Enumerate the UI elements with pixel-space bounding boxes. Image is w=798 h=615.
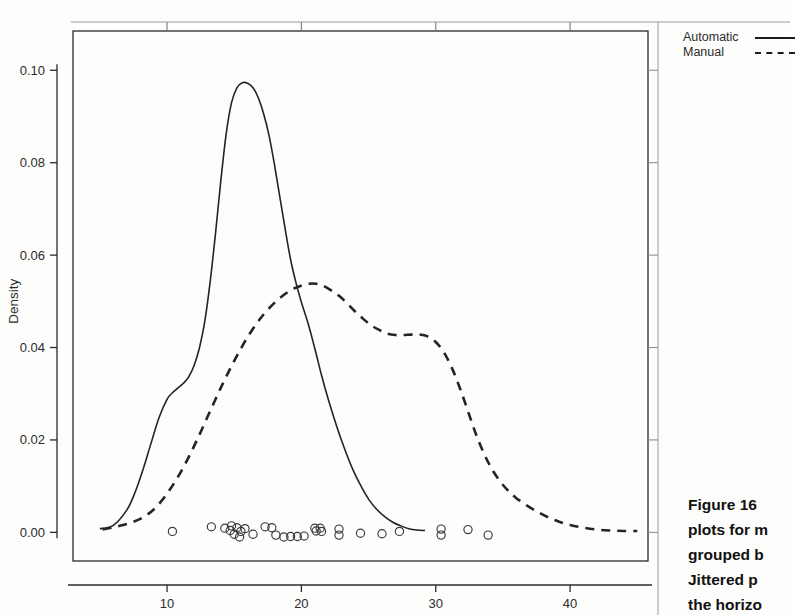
jittered-point: [464, 525, 472, 533]
density-curve-manual: [103, 284, 638, 531]
y-axis-tick-label: 0.08: [20, 155, 45, 170]
jittered-points-group: [168, 522, 492, 541]
y-axis-tick-label: 0.02: [20, 432, 45, 447]
solid-line-key: [755, 37, 795, 42]
jittered-point: [395, 527, 403, 535]
y-axis-tick-label: 0.06: [20, 248, 45, 263]
figure-caption: Figure 16plots for mgrouped bJittered pt…: [688, 492, 798, 615]
jittered-point: [207, 523, 215, 531]
x-axis-tick-label: 40: [563, 596, 577, 611]
jittered-point: [484, 531, 492, 539]
jittered-point: [378, 530, 386, 538]
jittered-point: [272, 531, 280, 539]
y-axis-title: Density: [6, 279, 21, 324]
y-axis-tick-label: 0.10: [20, 63, 45, 78]
y-axis-tick-label: 0.00: [20, 525, 45, 540]
caption-line: grouped b: [688, 542, 798, 567]
density-curve-automatic: [100, 82, 425, 530]
caption-line: plots for m: [688, 517, 798, 542]
caption-line: the horizo: [688, 592, 798, 615]
jittered-point: [437, 531, 445, 539]
caption-line: Figure 16: [688, 492, 798, 517]
dashed-line-key: [755, 52, 795, 57]
plot-frame: [73, 31, 648, 561]
jittered-point: [356, 529, 364, 537]
jittered-point: [249, 530, 257, 538]
jittered-point: [335, 531, 343, 539]
legend: Automatic Manual: [683, 30, 790, 70]
x-axis-tick-label: 10: [160, 596, 174, 611]
legend-item-automatic: Automatic: [683, 30, 739, 45]
legend-item-manual: Manual: [683, 45, 724, 60]
caption-line: Jittered p: [688, 567, 798, 592]
jittered-point: [168, 527, 176, 535]
legend-label-automatic: Automatic: [683, 30, 739, 44]
x-axis-tick-label: 30: [428, 596, 442, 611]
legend-label-manual: Manual: [683, 45, 724, 59]
x-axis-tick-label: 20: [294, 596, 308, 611]
y-axis-tick-label: 0.04: [20, 340, 45, 355]
